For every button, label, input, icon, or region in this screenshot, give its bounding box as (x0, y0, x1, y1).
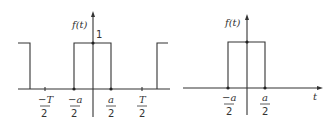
tick-label-pos-a: a (262, 92, 268, 103)
tick-label-pos-a: a (108, 94, 114, 105)
tick-label-neg-a: −a (222, 92, 236, 103)
right-partial-pulse (157, 43, 168, 89)
right-xlabel: t (313, 91, 318, 102)
svg-text:2: 2 (41, 108, 47, 119)
svg-text:2: 2 (71, 108, 77, 119)
amplitude-label: 1 (96, 29, 102, 40)
y-axis-arrow-icon (91, 11, 95, 17)
left-partial-pulse (18, 43, 30, 89)
tick-label-neg-T: −T (38, 94, 54, 105)
figure: f(t) 1 −T 2 −a 2 a 2 T 2 f(t) t −a 2 a 2 (0, 0, 334, 124)
svg-text:2: 2 (226, 106, 232, 117)
tick-label-pos-T: T (139, 94, 147, 105)
y-axis-arrow-icon (245, 14, 249, 20)
right-ylabel: f(t) (224, 17, 241, 28)
x-axis-arrow-icon (317, 86, 323, 90)
single-pulse-plot (183, 14, 323, 115)
svg-text:2: 2 (139, 108, 145, 119)
tick-label-neg-a: −a (68, 94, 82, 105)
left-ylabel: f(t) (71, 19, 88, 30)
svg-text:2: 2 (262, 106, 268, 117)
svg-text:2: 2 (108, 108, 114, 119)
